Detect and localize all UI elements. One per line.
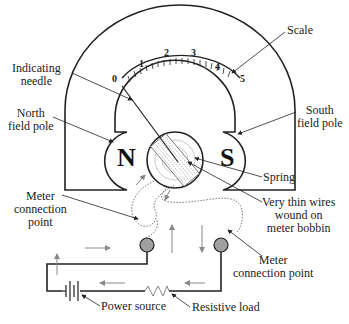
- scale-tick-5: 5: [240, 73, 245, 84]
- label-spring: Spring: [263, 171, 295, 184]
- leader-connection-left: [62, 195, 138, 219]
- label-north-field-pole: North field pole: [8, 107, 54, 133]
- label-resistive-load: Resistive load: [192, 301, 260, 314]
- scale-tick-1: 1: [139, 58, 144, 69]
- scale-tick-0: 0: [112, 73, 117, 84]
- leader-connection-right: [228, 230, 262, 256]
- meter-terminal-right: [214, 238, 228, 252]
- label-meter-connection-right: Meter connection point: [233, 254, 313, 280]
- north-pole-letter: N: [117, 143, 136, 173]
- current-arrows: [57, 175, 205, 283]
- resistor-symbol: [145, 286, 169, 296]
- label-power-source: Power source: [101, 300, 166, 313]
- meter-terminal-left: [140, 238, 154, 252]
- south-pole-letter: S: [220, 143, 234, 173]
- label-scale: Scale: [287, 24, 313, 37]
- leader-resistive: [172, 294, 190, 307]
- scale-tick-3: 3: [191, 47, 196, 58]
- leader-power: [82, 295, 100, 306]
- scale-tick-2: 2: [164, 47, 169, 58]
- battery-symbol: [62, 281, 78, 301]
- label-indicating-needle: Indicating needle: [12, 62, 61, 88]
- scale-tick-4: 4: [215, 61, 220, 72]
- label-meter-connection-left: Meter connection point: [14, 190, 67, 229]
- meter-diagram: 0 1 2 3 4 5: [0, 0, 349, 324]
- label-south-field-pole: South field pole: [297, 104, 343, 130]
- label-thin-wires: Very thin wires wound on meter bobbin: [262, 196, 335, 235]
- circuit-wire: [47, 252, 221, 291]
